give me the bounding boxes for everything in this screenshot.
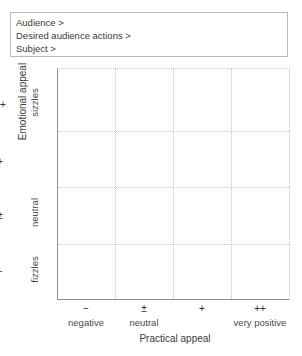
x-tick-symbol-negative: −	[66, 303, 106, 314]
x-tick-label-very-positive: very positive	[220, 317, 300, 328]
gridline-horizontal-1	[58, 131, 289, 132]
gridline-horizontal-3	[58, 244, 289, 245]
gridline-horizontal-2	[58, 187, 289, 188]
y-tick-symbol-plus: +	[0, 156, 8, 167]
y-tick-label-sizzles: sizzles	[29, 68, 40, 138]
plot-area[interactable]	[57, 68, 290, 300]
gridline-vertical-3	[231, 69, 232, 299]
positioning-matrix-chart: Emotional appeal ++ + ± − sizzles neutra…	[0, 0, 302, 356]
y-tick-label-fizzles: fizzles	[29, 235, 40, 305]
x-axis-title: Practical appeal	[115, 333, 235, 344]
gridline-vertical-2	[173, 69, 174, 299]
y-tick-symbol-sizzles: ++	[0, 99, 8, 110]
x-tick-symbol-very-positive: ++	[240, 303, 280, 314]
x-tick-label-neutral: neutral	[104, 317, 184, 328]
y-tick-symbol-fizzles: −	[0, 266, 8, 277]
y-axis-title: Emotional appeal	[17, 32, 28, 172]
y-tick-symbol-neutral: ±	[0, 210, 8, 221]
x-tick-symbol-positive: +	[182, 303, 222, 314]
gridline-vertical-1	[115, 69, 116, 299]
x-tick-symbol-neutral: ±	[124, 303, 164, 314]
